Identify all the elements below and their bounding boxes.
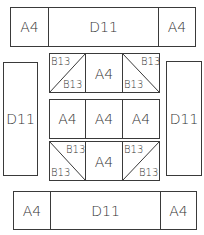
- grid-r2c3-label: A4: [132, 111, 150, 127]
- grid-r3c1-top-label: B13: [66, 144, 85, 155]
- bottom-bar-left-label: A4: [23, 203, 41, 219]
- right-side-panel: D11: [167, 62, 202, 176]
- grid-r2c2-label: A4: [95, 111, 113, 127]
- top-bar: A4 D11 A4: [11, 8, 196, 47]
- grid-r2c1-label: A4: [58, 111, 76, 127]
- top-bar-right-label: A4: [168, 19, 186, 35]
- top-bar-center-label: D11: [89, 19, 118, 35]
- grid-r3c3-top-label: B13: [124, 144, 143, 155]
- grid-row-2: A4 A4 A4: [50, 100, 160, 139]
- bottom-bar-center-label: D11: [91, 203, 120, 219]
- grid-r1c1-bottom-label: B13: [63, 79, 82, 90]
- grid-r1c3-top-label: B13: [141, 56, 160, 67]
- grid-r3c3-bottom-label: B13: [139, 167, 158, 178]
- grid-row-3: B13 B13 A4 B13 B13: [50, 142, 160, 181]
- left-side-panel: D11: [4, 63, 38, 176]
- right-side-label: D11: [170, 111, 199, 127]
- grid-r1c2-label: A4: [95, 66, 113, 82]
- grid-r1c1-top-label: B13: [51, 56, 70, 67]
- bottom-bar-right-label: A4: [169, 203, 187, 219]
- grid-row-1: B13 B13 A4 B13 B13: [50, 54, 161, 93]
- grid-r3c1-bottom-label: B13: [51, 167, 70, 178]
- grid-r3c2-label: A4: [95, 154, 113, 170]
- top-bar-left-label: A4: [20, 19, 38, 35]
- grid-r1c3-bottom-label: B13: [124, 79, 143, 90]
- bottom-bar: A4 D11 A4: [14, 192, 197, 230]
- left-side-label: D11: [6, 111, 35, 127]
- quilt-layout-diagram: A4 D11 A4 D11 D11 B13 B13 A4 B13 B13 A4 …: [0, 0, 204, 235]
